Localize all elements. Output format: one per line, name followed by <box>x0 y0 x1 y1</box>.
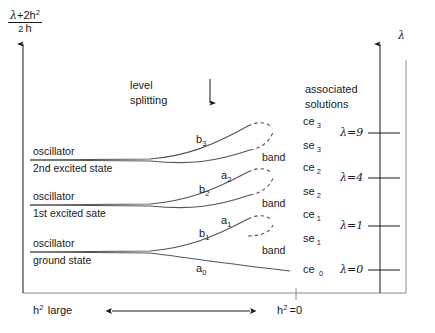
lambda-tick-label-9: λ=9 <box>340 127 363 138</box>
oscillator-state-0-line1: oscillator <box>33 238 74 249</box>
y-axis-label: λ+2h2 2 h <box>8 10 42 34</box>
band-label-2: band <box>262 198 285 209</box>
curve-b3-dash <box>248 123 272 127</box>
branch-label-a0: a0 <box>196 263 206 274</box>
curve-b1-dash2 <box>248 225 273 236</box>
h2-large-label: h2 large <box>33 305 72 316</box>
solution-label-ce1: ce 1 <box>303 209 321 220</box>
lambda-tick-label-4: λ=4 <box>340 172 363 183</box>
branch-label-a2: a2 <box>221 170 231 181</box>
lambda-tick-label-1: λ=1 <box>340 220 363 231</box>
band-label-1: band <box>262 245 285 256</box>
curve-a1-dash <box>250 178 273 195</box>
level-splitting-label-line2: splitting <box>130 95 167 106</box>
solution-label-se1: se 1 <box>303 233 321 244</box>
h2-zero-label: h2 =0 <box>277 305 302 316</box>
solution-label-ce0: ce 0 <box>303 264 323 275</box>
oscillator-state-1-line1: oscillator <box>33 191 74 202</box>
solution-label-se2: se 2 <box>303 186 321 197</box>
curve-b1-dash <box>248 216 272 220</box>
lambda-tick-label-0: λ=0 <box>340 264 363 275</box>
oscillator-state-2-line1: oscillator <box>33 146 74 157</box>
oscillator-state-0-line2: ground state <box>33 255 91 266</box>
solution-label-se3: se 3 <box>303 140 321 151</box>
branch-label-b2: b2 <box>199 184 209 195</box>
branch-label-b1: b1 <box>199 228 209 239</box>
solution-label-ce3: ce 3 <box>303 116 321 127</box>
branch-label-b3: b3 <box>196 134 206 145</box>
oscillator-state-1-line2: 1st excited sate <box>33 208 106 219</box>
curve-b2-dash <box>248 169 272 173</box>
lambda-axis-label: λ <box>398 30 405 41</box>
level-splitting-label-line1: level <box>130 80 153 91</box>
band-label-3: band <box>262 152 285 163</box>
lambda-tick-marks <box>368 133 400 270</box>
branch-label-a1: a1 <box>221 215 231 226</box>
associated-solutions-line1: associated <box>305 84 358 95</box>
associated-solutions-line2: solutions <box>305 99 348 110</box>
oscillator-state-2-line2: 2nd excited state <box>33 163 112 174</box>
solution-label-ce2: ce 2 <box>303 162 321 173</box>
curve-a2-dash <box>250 132 273 150</box>
